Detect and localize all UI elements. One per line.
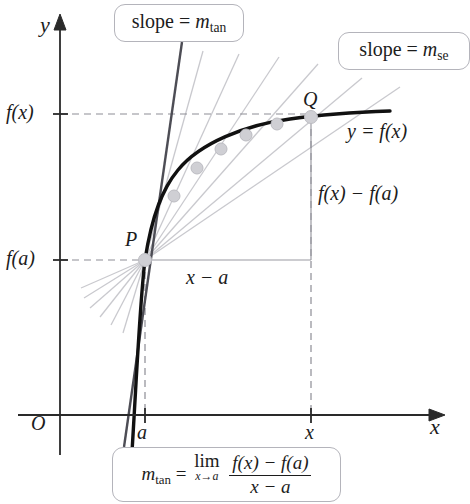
intermediate-point-5 <box>271 118 283 130</box>
secant-line-ext-1 <box>100 260 145 317</box>
point-Q-dot <box>305 111 318 124</box>
callout-slope-tangent: slope = mtan <box>114 4 244 42</box>
point-label-P: P <box>125 228 137 251</box>
callout-tangent-subscript: tan <box>210 20 227 35</box>
x-axis-label: x <box>430 414 440 440</box>
callout-secant-text: slope = mse <box>359 38 448 64</box>
guide-line-group <box>60 114 311 415</box>
run-label: x − a <box>186 266 228 289</box>
formula-numerator: f(x) − f(a) <box>229 452 311 475</box>
formula-denominator: x − a <box>229 476 311 499</box>
intermediate-point-3 <box>215 143 227 155</box>
secant-line-4 <box>145 64 318 260</box>
point-P-dot <box>139 254 152 267</box>
callout-secant-prefix: slope = <box>359 38 423 60</box>
callout-slope-secant: slope = mse <box>338 32 470 70</box>
intermediate-point-2 <box>191 162 203 174</box>
y-axis-label: y <box>40 12 50 38</box>
formula-limit: lim x→a <box>194 451 219 483</box>
callout-tangent-text: slope = mtan <box>132 10 227 36</box>
secant-line-ext-4 <box>81 260 145 288</box>
formula-equals: = <box>176 463 187 484</box>
y-tick-label-fx: f(x) <box>6 101 34 124</box>
formula-fraction: f(x) − f(a) x − a <box>229 452 311 498</box>
y-tick-label-fa: f(a) <box>6 247 35 270</box>
rise-label: f(x) − f(a) <box>318 182 398 205</box>
curve-equation-label: y = f(x) <box>347 120 407 143</box>
formula-lhs-subscript: tan <box>155 472 171 487</box>
secant-line-ext-2 <box>90 260 145 308</box>
formula-limit-under: x→a <box>194 471 219 483</box>
y-axis-arrow <box>54 14 66 30</box>
formula-limit-word: lim <box>194 451 219 470</box>
formula-expression: mtan = lim x→a f(x) − f(a) x − a <box>142 451 312 499</box>
intermediate-point-4 <box>240 129 252 141</box>
callout-secant-symbol: m <box>423 38 437 60</box>
callout-limit-formula: mtan = lim x→a f(x) − f(a) x − a <box>112 447 341 502</box>
x-tick-label-x: x <box>305 421 314 444</box>
origin-label: O <box>31 412 45 435</box>
callout-tangent-prefix: slope = <box>132 10 196 32</box>
x-tick-label-a: a <box>137 421 147 444</box>
intermediate-point-1 <box>168 190 180 202</box>
formula-lhs-symbol: m <box>142 463 156 484</box>
axis-group <box>18 14 445 455</box>
callout-secant-subscript: se <box>437 48 448 63</box>
callout-tangent-symbol: m <box>195 10 209 32</box>
point-label-Q: Q <box>303 88 317 111</box>
